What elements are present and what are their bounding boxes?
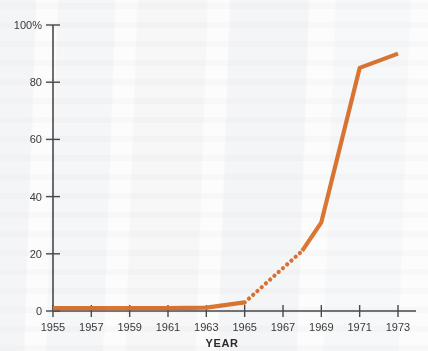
x-tick-label-1971: 1971: [347, 321, 371, 333]
y-tick-label-20: 20: [30, 248, 42, 260]
x-tick-label-1965: 1965: [232, 321, 256, 333]
x-tick-label-1973: 1973: [386, 321, 410, 333]
x-axis-title: YEAR: [206, 337, 239, 349]
x-tick-label-1963: 1963: [194, 321, 218, 333]
series-segment-flat: [53, 302, 245, 308]
x-tick-label-1955: 1955: [41, 321, 65, 333]
chart-container: 100% 80 60 40 20 0 1955 1957 1959 1961 1…: [0, 0, 428, 351]
x-tick-label-1967: 1967: [271, 321, 295, 333]
line-chart: 100% 80 60 40 20 0 1955 1957 1959 1961 1…: [0, 0, 428, 351]
y-tick-label-0: 0: [36, 305, 42, 317]
series-segment-estimated: [245, 251, 303, 302]
y-tick-label-100: 100%: [14, 19, 42, 31]
x-tick-label-1961: 1961: [156, 321, 180, 333]
x-tick-label-1969: 1969: [309, 321, 333, 333]
y-tick-label-60: 60: [30, 133, 42, 145]
x-tick-label-1959: 1959: [117, 321, 141, 333]
series-group: [53, 54, 398, 309]
y-tick-label-40: 40: [30, 191, 42, 203]
y-tick-label-80: 80: [30, 76, 42, 88]
x-tick-label-1957: 1957: [79, 321, 103, 333]
series-segment-rise: [302, 54, 398, 251]
year-axis: 1955 1957 1959 1961 1963 1965 1967 1969 …: [41, 305, 416, 349]
percent-axis: 100% 80 60 40 20 0: [14, 19, 60, 317]
